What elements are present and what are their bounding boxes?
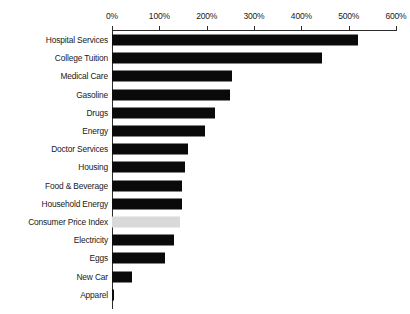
category-label: Apparel <box>80 290 108 300</box>
bar <box>112 271 132 282</box>
x-axis-tick-label: 300% <box>244 11 265 21</box>
bar-row: College Tuition <box>0 49 410 67</box>
bar-row: Housing <box>0 158 410 176</box>
category-label: Household Energy <box>41 199 108 209</box>
bar-rows: Hospital ServicesCollege TuitionMedical … <box>0 31 410 304</box>
bar-row: New Car <box>0 267 410 285</box>
bar-row: Medical Care <box>0 67 410 85</box>
category-label: Medical Care <box>60 71 108 81</box>
category-label: Hospital Services <box>46 35 108 45</box>
x-axis-tick-label: 200% <box>196 11 217 21</box>
bar <box>112 180 182 191</box>
x-axis: 0%100%200%300%400%500%600% <box>0 0 410 34</box>
category-label: Energy <box>82 126 108 136</box>
bar-row: Consumer Price Index <box>0 213 410 231</box>
bar <box>112 162 185 173</box>
bar <box>112 35 358 46</box>
bar-row: Apparel <box>0 286 410 304</box>
bar <box>112 53 322 64</box>
bar-highlight <box>112 216 180 227</box>
x-axis-tick-label: 500% <box>338 11 359 21</box>
x-axis-tick-label: 0% <box>106 11 118 21</box>
bar <box>112 198 182 209</box>
category-label: Electricity <box>74 235 108 245</box>
category-label: College Tuition <box>55 53 108 63</box>
bar-row: Food & Beverage <box>0 177 410 195</box>
bar-row: Household Energy <box>0 195 410 213</box>
bar <box>112 235 174 246</box>
bar <box>112 107 215 118</box>
category-label: Housing <box>78 162 108 172</box>
bar-row: Electricity <box>0 231 410 249</box>
category-label: Drugs <box>86 108 108 118</box>
category-label: Eggs <box>90 253 109 263</box>
plot-area: Hospital ServicesCollege TuitionMedical … <box>0 31 410 309</box>
category-label: Consumer Price Index <box>28 217 108 227</box>
bar-row: Eggs <box>0 249 410 267</box>
bar <box>112 89 230 100</box>
bar <box>112 126 205 137</box>
category-label: Food & Beverage <box>45 181 108 191</box>
x-axis-tick-label: 600% <box>386 11 407 21</box>
category-label: Doctor Services <box>51 144 108 154</box>
bar <box>112 289 114 300</box>
bar-row: Energy <box>0 122 410 140</box>
bar-chart: 0%100%200%300%400%500%600% Hospital Serv… <box>0 0 410 314</box>
bar <box>112 144 188 155</box>
category-label: New Car <box>76 272 108 282</box>
bar-row: Drugs <box>0 104 410 122</box>
x-axis-tick-label: 100% <box>149 11 170 21</box>
bar <box>112 71 232 82</box>
category-label: Gasoline <box>76 90 108 100</box>
bar <box>112 253 165 264</box>
bar-row: Doctor Services <box>0 140 410 158</box>
bar-row: Hospital Services <box>0 31 410 49</box>
bar-row: Gasoline <box>0 86 410 104</box>
x-axis-tick-label: 400% <box>291 11 312 21</box>
